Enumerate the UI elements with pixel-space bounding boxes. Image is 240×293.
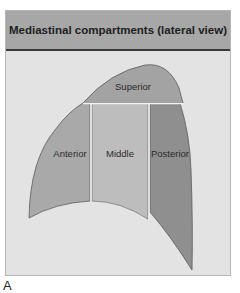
figure-caption: A: [3, 278, 12, 293]
label-posterior: Posterior: [151, 148, 189, 159]
anterior-compartment: [29, 103, 90, 218]
mediastinum-diagram: Superior Anterior Middle Posterior: [0, 0, 240, 293]
label-anterior: Anterior: [53, 148, 86, 159]
label-superior: Superior: [115, 81, 151, 92]
middle-compartment: [92, 103, 148, 219]
posterior-compartment: [150, 103, 192, 270]
label-middle: Middle: [106, 148, 134, 159]
